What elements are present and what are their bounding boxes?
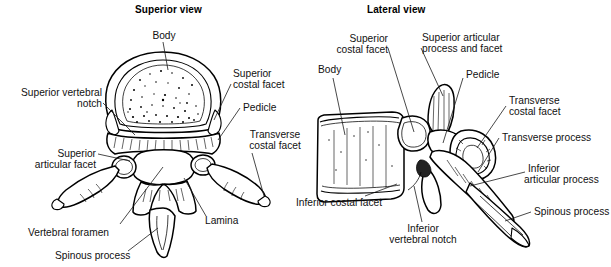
leader-sup-vertebral-foramen: [120, 167, 163, 224]
label-superior-body: Body: [129, 30, 199, 41]
leader-lat-superior-articular-process: [421, 48, 443, 96]
leader-lat-spinous-process: [505, 212, 531, 221]
label-superior-articular-process-line1: Superior articular: [422, 32, 500, 43]
label-inferior-vertebral-notch-line1: Inferior: [381, 223, 465, 234]
leader-sup-lamina: [184, 178, 206, 216]
leader-lat-body: [333, 78, 345, 135]
label-lateral-body: Body: [318, 64, 341, 75]
label-inferior-vertebral-notch-line2: vertebral notch: [381, 234, 465, 245]
label-lamina: Lamina: [205, 215, 238, 226]
label-lateral-pedicle: Pedicle: [466, 69, 499, 80]
leader-sup-vertebral-notch: [103, 103, 135, 135]
label-lateral-superior-costal-facet-line1: Superior: [306, 33, 388, 44]
anatomy-figure: Superior view Lateral view Body Superior…: [0, 0, 611, 267]
label-superior-articular-process-line2: process and facet: [422, 43, 502, 54]
label-vertebral-foramen: Vertebral foramen: [28, 227, 109, 238]
label-lateral-superior-costal-facet-line2: costal facet: [306, 44, 388, 55]
label-inferior-articular-process-line1: Inferior: [528, 163, 560, 174]
label-lateral-transverse-costal-facet-line2: costal facet: [509, 106, 561, 117]
label-transverse-process: Transverse process: [502, 132, 591, 143]
leader-lat-transverse-process: [478, 138, 499, 172]
label-transverse-costal-facet-line2: costal facet: [238, 140, 312, 151]
label-lateral-transverse-costal-facet-line1: Transverse: [509, 95, 560, 106]
label-superior-articular-facet-line1: Superior: [0, 148, 96, 159]
label-superior-articular-facet-line2: articular facet: [0, 159, 96, 170]
label-superior-spinous-process: Spinous process: [55, 250, 130, 261]
leader-sup-spinous-process: [128, 228, 158, 251]
label-superior-vertebral-notch-line2: notch: [0, 98, 102, 109]
leader-sup-costal-facet: [214, 84, 231, 120]
lateral-view-title: Lateral view: [367, 4, 425, 15]
label-lateral-spinous-process: Spinous process: [534, 206, 609, 217]
leader-lat-inferior-articular-process: [470, 172, 525, 186]
label-inferior-costal-facet: Inferior costal facet: [296, 197, 382, 208]
leader-sup-body: [163, 42, 168, 70]
leader-lat-inferior-costal-facet: [365, 184, 397, 196]
label-superior-costal-facet-line1: Superior: [233, 68, 272, 79]
leader-lat-superior-costal-facet: [388, 48, 414, 132]
leader-sup-transverse-costal-facet: [252, 153, 264, 196]
label-superior-costal-facet-line2: costal facet: [233, 79, 285, 90]
superior-view-title: Superior view: [135, 4, 202, 15]
label-inferior-articular-process-line2: articular process: [524, 174, 599, 185]
label-transverse-costal-facet-line1: Transverse: [238, 129, 312, 140]
label-superior-vertebral-notch-line1: Superior vertebral: [0, 87, 102, 98]
leader-sup-articular-facet: [98, 154, 130, 161]
leader-lat-inferior-vertebral-notch: [414, 186, 422, 222]
leader-sup-pedicle: [218, 108, 240, 140]
label-superior-pedicle: Pedicle: [243, 102, 276, 113]
leader-lat-pedicle: [443, 78, 463, 143]
